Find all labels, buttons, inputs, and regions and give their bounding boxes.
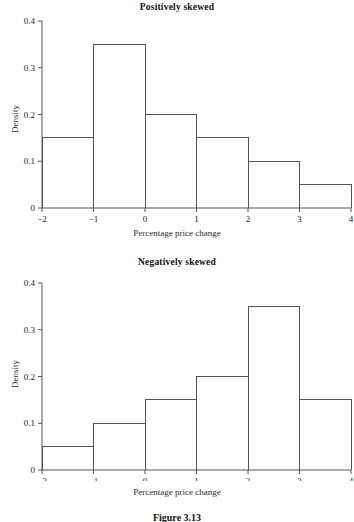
y-axis-tick-label: 0	[31, 465, 36, 475]
chart-panel-positively-skewed: Positively skewed Density 00.10.20.30.4−…	[0, 0, 354, 248]
y-axis-tick-label: 0.2	[24, 372, 35, 382]
x-axis-tick-label: 0	[143, 214, 148, 222]
x-axis-tick-label: −2	[37, 214, 47, 222]
y-axis-tick-label: 0.3	[24, 325, 36, 335]
y-axis-tick-label: 0.4	[24, 16, 36, 26]
chart-panel-negatively-skewed: Negatively skewed Density 00.10.20.30.4−…	[0, 255, 354, 507]
x-axis-title-negative: Percentage price change	[0, 487, 354, 497]
x-axis-tick-label: 3	[297, 214, 302, 222]
y-axis-tick-label: 0.1	[24, 156, 35, 166]
x-axis-tick-label: 2	[246, 214, 251, 222]
x-axis-tick-label: 1	[194, 214, 199, 222]
x-axis-tick-label: 0	[143, 476, 148, 481]
y-axis-tick-label: 0	[31, 203, 36, 213]
y-axis-tick-label: 0.1	[24, 418, 35, 428]
x-axis-tick-label: 4	[349, 476, 354, 481]
x-axis-tick-label: 1	[194, 476, 199, 481]
x-axis-tick-label: 2	[246, 476, 251, 481]
histogram-plot-positive: 00.10.20.30.4−2−101234	[0, 0, 354, 222]
y-axis-tick-label: 0.2	[24, 110, 35, 120]
x-axis-title-positive: Percentage price change	[0, 228, 354, 238]
x-axis-tick-label: 3	[297, 476, 302, 481]
x-axis-tick-label: −2	[37, 476, 47, 481]
histogram-plot-negative: 00.10.20.30.4−2−101234	[0, 255, 354, 481]
figure-caption: Figure 3.13	[0, 512, 354, 522]
y-axis-tick-label: 0.4	[24, 278, 36, 288]
x-axis-tick-label: −1	[89, 476, 99, 481]
x-axis-tick-label: 4	[349, 214, 354, 222]
x-axis-tick-label: −1	[89, 214, 99, 222]
y-axis-tick-label: 0.3	[24, 63, 36, 73]
